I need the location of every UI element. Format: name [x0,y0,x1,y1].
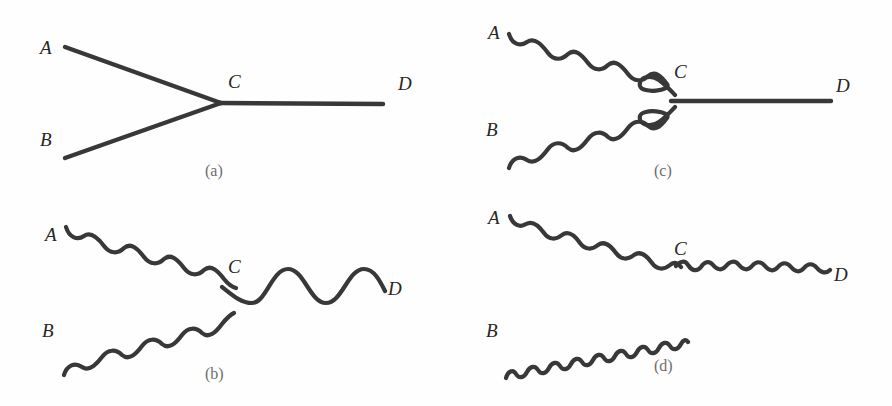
wave-b-to-c [509,107,675,168]
label-b: B [486,120,498,139]
label-c: C [228,72,241,91]
panel-d-drawing [446,203,892,406]
panel-d: A B C D (d) [446,203,892,406]
label-a: A [488,208,500,227]
label-d: D [388,279,402,298]
panel-b: A B C D (b) [0,203,446,406]
panel-caption-c: (c) [654,163,672,179]
label-c: C [674,62,687,81]
wave-a-to-c [510,216,681,269]
panel-c: A B C D (c) [446,0,892,203]
line-c-to-d [219,103,383,104]
label-a: A [45,225,57,244]
label-c: C [674,239,687,258]
label-d: D [398,74,412,93]
wave-a-to-c [66,227,236,288]
label-c: C [228,257,241,276]
wave-a-to-c [509,34,675,95]
line-a-to-c [65,47,221,103]
label-a: A [488,23,500,42]
panel-caption-a: (a) [205,163,223,179]
label-b: B [42,321,54,340]
wave-c-to-d [676,262,830,273]
label-d: D [836,76,850,95]
panel-caption-b: (b) [205,366,224,382]
line-b-to-c [65,103,221,158]
label-b: B [40,130,52,149]
wave-c-to-d [222,269,385,303]
panel-caption-d: (d) [654,358,673,374]
label-b: B [486,321,498,340]
panel-a-drawing [0,0,446,203]
label-a: A [40,38,52,57]
label-d: D [834,265,848,284]
figure-root: A B C D (a) A B C D (c) A B C D [0,0,892,406]
panel-a: A B C D (a) [0,0,446,203]
